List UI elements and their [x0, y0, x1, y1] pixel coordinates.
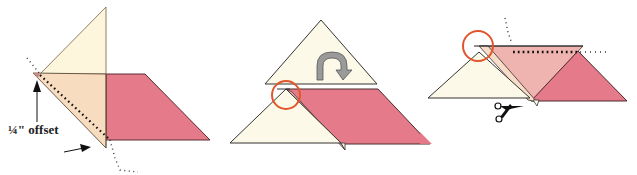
offset-label: ¼" offset: [8, 122, 59, 137]
pink-parallelogram: [106, 74, 210, 140]
panel-1: ¼" offset: [8, 7, 210, 172]
panel-3: [428, 18, 627, 122]
scissors-icon: [495, 103, 524, 122]
cream-triangle-upper: [40, 7, 106, 74]
right-arrow-icon: [80, 144, 91, 152]
guide-dotted-line-lower: [110, 140, 138, 172]
guide-dotted-line: [27, 58, 40, 74]
diagram-canvas: ¼" offset: [0, 0, 637, 175]
guide-dotted-line-vertical: [505, 18, 512, 44]
panel-2: [230, 20, 430, 150]
up-arrow-icon: [33, 80, 41, 92]
